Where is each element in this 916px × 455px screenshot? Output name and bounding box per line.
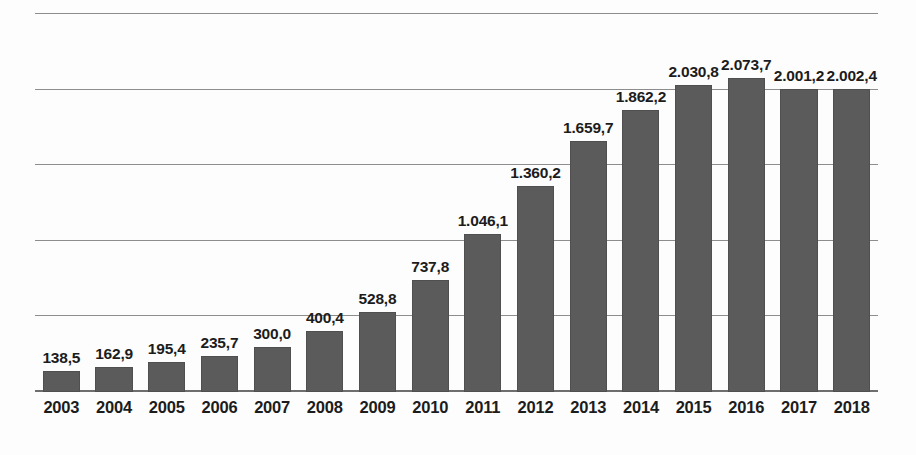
x-tick-2008: 2008	[298, 398, 351, 417]
x-tick-2006: 2006	[193, 398, 246, 417]
bar-value-label-2006: 235,7	[201, 334, 239, 352]
bar-2011[interactable]	[464, 14, 501, 392]
bar-rect[interactable]	[306, 331, 343, 392]
bar-rect[interactable]	[359, 312, 396, 392]
x-tick-2016: 2016	[720, 398, 773, 417]
x-tick-2010: 2010	[404, 398, 457, 417]
bar-rect[interactable]	[412, 280, 449, 392]
bar-2003[interactable]	[43, 14, 80, 392]
bar-2004[interactable]	[95, 14, 132, 392]
plot-area: 138,5162,9195,4235,7300,0400,4528,8737,8…	[35, 14, 878, 392]
x-tick-2015: 2015	[667, 398, 720, 417]
bar-value-label-2010: 737,8	[411, 258, 449, 276]
bar-value-label-2011: 1.046,1	[458, 212, 508, 230]
bar-2012[interactable]	[517, 14, 554, 392]
bar-value-label-2003: 138,5	[42, 349, 80, 367]
bar-value-label-2014: 1.862,2	[616, 88, 666, 106]
bar-value-label-2007: 300,0	[253, 325, 291, 343]
x-tick-2018: 2018	[825, 398, 878, 417]
bar-value-label-2012: 1.360,2	[510, 164, 560, 182]
bars-layer: 138,5162,9195,4235,7300,0400,4528,8737,8…	[35, 14, 878, 392]
bar-chart: 138,5162,9195,4235,7300,0400,4528,8737,8…	[0, 0, 916, 455]
bar-rect[interactable]	[464, 234, 501, 392]
x-tick-2005: 2005	[140, 398, 193, 417]
bar-2010[interactable]	[412, 14, 449, 392]
bar-rect[interactable]	[675, 85, 712, 392]
bar-value-label-2016: 2.073,7	[721, 56, 771, 74]
bar-2013[interactable]	[570, 14, 607, 392]
bar-rect[interactable]	[254, 347, 291, 392]
x-tick-2012: 2012	[509, 398, 562, 417]
x-tick-2014: 2014	[615, 398, 668, 417]
bar-2008[interactable]	[306, 14, 343, 392]
bar-rect[interactable]	[728, 78, 765, 392]
bar-value-label-2008: 400,4	[306, 309, 344, 327]
bar-rect[interactable]	[95, 367, 132, 392]
x-tick-2007: 2007	[246, 398, 299, 417]
bar-rect[interactable]	[148, 362, 185, 392]
bar-value-label-2013: 1.659,7	[563, 119, 613, 137]
bar-2005[interactable]	[148, 14, 185, 392]
x-axis-labels: 2003200420052006200720082009201020112012…	[35, 398, 878, 438]
bar-rect[interactable]	[622, 110, 659, 392]
x-tick-2013: 2013	[562, 398, 615, 417]
bar-value-label-2017: 2.001,2	[774, 67, 824, 85]
x-tick-2004: 2004	[88, 398, 141, 417]
bar-rect[interactable]	[43, 371, 80, 392]
bar-2014[interactable]	[622, 14, 659, 392]
bar-value-label-2004: 162,9	[95, 345, 133, 363]
x-tick-2003: 2003	[35, 398, 88, 417]
bar-value-label-2018: 2.002,4	[826, 67, 876, 85]
bar-rect[interactable]	[201, 356, 238, 392]
bar-rect[interactable]	[780, 89, 817, 392]
bar-rect[interactable]	[570, 141, 607, 392]
bar-rect[interactable]	[517, 186, 554, 392]
x-tick-2011: 2011	[457, 398, 510, 417]
bar-rect[interactable]	[833, 89, 870, 392]
bar-value-label-2015: 2.030,8	[668, 63, 718, 81]
bar-2009[interactable]	[359, 14, 396, 392]
bar-value-label-2009: 528,8	[359, 290, 397, 308]
x-tick-2017: 2017	[773, 398, 826, 417]
bar-value-label-2005: 195,4	[148, 340, 186, 358]
x-tick-2009: 2009	[351, 398, 404, 417]
